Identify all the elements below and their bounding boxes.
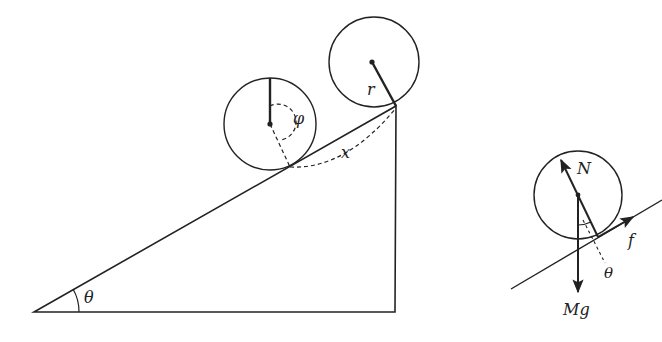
- top-cylinder-radius: [372, 62, 396, 106]
- weight-label: Mg: [562, 300, 590, 319]
- physics-diagram: θ φ x r N Mg: [0, 0, 662, 342]
- displacement-label: x: [341, 143, 350, 162]
- rolling-cylinder: φ: [224, 78, 316, 170]
- base-angle-label: θ: [84, 288, 94, 307]
- incline-triangle: [34, 106, 396, 312]
- free-body-diagram: N Mg f θ: [511, 151, 662, 319]
- base-angle-arc: [73, 289, 79, 312]
- radius-label: r: [367, 80, 376, 99]
- rotation-angle-label: φ: [293, 109, 305, 128]
- contact-radius-dashed: [270, 124, 290, 167]
- fbd-angle-label: θ: [604, 264, 613, 282]
- top-cylinder: r: [329, 17, 419, 107]
- normal-force-label: N: [576, 159, 592, 178]
- top-cylinder-center-dot: [369, 59, 374, 64]
- friction-label: f: [627, 231, 637, 250]
- fbd-center-dot: [576, 193, 581, 198]
- incline-diagram: θ φ x r: [34, 17, 419, 312]
